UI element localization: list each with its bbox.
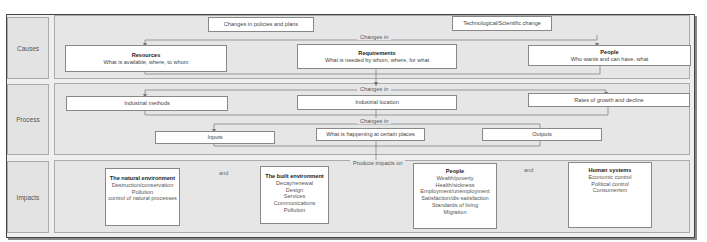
driver-policies-plans: Changes in policies and plans — [208, 17, 314, 32]
box-subtitle: Who wants and can have, what — [571, 56, 649, 63]
row-label-causes: Causes — [7, 17, 49, 79]
box-title: People — [414, 168, 496, 175]
list-item: control of natural processes — [106, 195, 179, 202]
box-label: Outputs — [532, 131, 552, 138]
list-item: Design — [261, 187, 328, 194]
list-item: Migration — [414, 209, 496, 216]
cause-box-requirements: Requirements What is needed by whom, whe… — [297, 44, 457, 69]
box-label: Industrial location — [355, 99, 399, 106]
list-item: Political control — [569, 181, 651, 188]
driver-tech-change: Technological/Scientific change — [452, 16, 552, 31]
list-item: Employment/unemployment — [414, 188, 496, 195]
connector-label-changes-in: Changes in — [357, 34, 391, 40]
list-item: Wealth/poverty — [414, 175, 496, 182]
box-subtitle: What is needed by whom, where, for what — [325, 57, 429, 64]
process-box-rates-growth: Rates of growth and decline — [528, 93, 690, 107]
impact-box-built-environment: The built environment Decay/renewal Desi… — [260, 166, 329, 224]
connector-label-changes-in-3: Changes in — [357, 118, 391, 124]
box-title: Human systems — [569, 167, 651, 174]
box-title: Resources — [132, 52, 161, 59]
list-item: Destruction/conservation — [106, 182, 179, 189]
process-box-inputs: Inputs — [155, 131, 275, 144]
connector-label-produce-impacts: Produce impacts on — [350, 160, 405, 166]
impact-box-natural-environment: The natural environment Destruction/cons… — [105, 168, 180, 226]
list-item: Communications — [261, 200, 328, 207]
box-subtitle: What is available, where, to whom — [104, 59, 189, 66]
box-label: Rates of growth and decline — [574, 97, 643, 104]
and-label-1: and — [219, 170, 228, 176]
list-item: Health/sickness — [414, 182, 496, 189]
impact-box-people: People Wealth/poverty Health/sickness Em… — [413, 163, 497, 229]
list-item: Decay/renewal — [261, 180, 328, 187]
list-item: Satisfaction/dis-satisfaction — [414, 195, 496, 202]
cause-box-resources: Resources What is available, where, to w… — [65, 45, 227, 72]
box-title: The built environment — [261, 173, 328, 180]
list-item: Standards of living — [414, 202, 496, 209]
list-item: Consumerism — [569, 187, 651, 194]
box-label: What is happening at certain places — [326, 131, 415, 138]
list-item: Pollution — [261, 207, 328, 214]
row-label-impacts: Impacts — [7, 161, 49, 233]
driver-label: Changes in policies and plans — [224, 21, 298, 28]
and-label-2: and — [524, 167, 533, 173]
box-title: The natural environment — [106, 175, 179, 182]
box-title: People — [600, 49, 618, 56]
box-title: Requirements — [358, 50, 395, 57]
box-label: Inputs — [207, 134, 222, 141]
box-label: Industrial methods — [124, 100, 170, 107]
list-item: Economic control — [569, 174, 651, 181]
row-label-process: Process — [7, 84, 49, 155]
list-item: Pollution — [106, 189, 179, 196]
process-box-industrial-location: Industrial location — [297, 95, 457, 110]
cause-box-people: People Who wants and can have, what — [528, 45, 691, 66]
process-box-outputs: Outputs — [482, 128, 602, 141]
impact-box-human-systems: Human systems Economic control Political… — [568, 162, 652, 228]
list-item: Services — [261, 193, 328, 200]
process-box-happening-places: What is happening at certain places — [316, 128, 425, 141]
driver-label: Technological/Scientific change — [463, 20, 541, 27]
connector-label-changes-in-2: Changes in — [357, 86, 391, 92]
process-box-industrial-methods: Industrial methods — [66, 96, 228, 111]
